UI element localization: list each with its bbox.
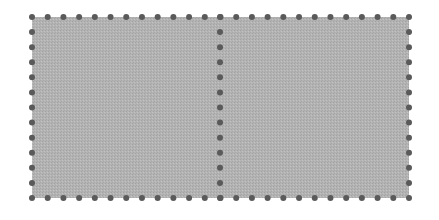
perforation-dot-top: [29, 14, 35, 20]
perforation-dot-right: [406, 120, 412, 126]
perforation-dot-bottom: [343, 195, 349, 201]
perforation-dot-bottom: [123, 195, 129, 201]
perforation-dot-divider: [217, 120, 223, 126]
perforation-dot-divider: [217, 165, 223, 171]
perforation-dot-top: [155, 14, 161, 20]
perforation-dot-top: [76, 14, 82, 20]
perforation-dot-bottom: [186, 195, 192, 201]
perforation-dot-top: [60, 14, 66, 20]
perforation-dot-right: [406, 74, 412, 80]
perforation-dot-top: [265, 14, 271, 20]
perforation-dot-bottom: [76, 195, 82, 201]
perforation-dot-divider: [217, 180, 223, 186]
perforation-dot-top: [186, 14, 192, 20]
perforation-dot-bottom: [280, 195, 286, 201]
perforation-dot-top: [45, 14, 51, 20]
perforation-dot-top: [249, 14, 255, 20]
perforation-dot-top: [343, 14, 349, 20]
perforation-dot-right: [406, 29, 412, 35]
perforation-dot-divider: [217, 59, 223, 65]
perforation-dot-divider: [217, 195, 223, 201]
perforation-dot-top: [233, 14, 239, 20]
perforation-dot-bottom: [359, 195, 365, 201]
perforation-dot-bottom: [312, 195, 318, 201]
perforation-dot-left: [29, 74, 35, 80]
perforation-dot-top: [375, 14, 381, 20]
perforation-dot-top: [359, 14, 365, 20]
right-panel: [220, 17, 409, 198]
perforation-dot-top: [108, 14, 114, 20]
perforation-dot-bottom: [92, 195, 98, 201]
perforation-dot-top: [406, 14, 412, 20]
perforation-dot-divider: [217, 14, 223, 20]
perforation-dot-right: [406, 105, 412, 111]
perforation-dot-left: [29, 89, 35, 95]
perforation-dot-left: [29, 180, 35, 186]
perforation-dot-bottom: [29, 195, 35, 201]
perforation-dot-right: [406, 135, 412, 141]
perforation-dot-bottom: [155, 195, 161, 201]
perforation-dot-top: [280, 14, 286, 20]
perforation-dot-divider: [217, 150, 223, 156]
perforation-dot-left: [29, 105, 35, 111]
perforation-dot-left: [29, 150, 35, 156]
perforation-dot-top: [327, 14, 333, 20]
perforation-dot-right: [406, 150, 412, 156]
perforation-dot-left: [29, 59, 35, 65]
perforation-dot-bottom: [249, 195, 255, 201]
perforation-dot-left: [29, 29, 35, 35]
perforation-dot-bottom: [265, 195, 271, 201]
perforation-dot-bottom: [60, 195, 66, 201]
perforation-dot-bottom: [139, 195, 145, 201]
perforation-dot-bottom: [406, 195, 412, 201]
perforation-dot-divider: [217, 44, 223, 50]
perforation-dot-bottom: [108, 195, 114, 201]
perforated-sheet-diagram: [0, 0, 439, 220]
perforation-dot-bottom: [327, 195, 333, 201]
perforation-dot-left: [29, 165, 35, 171]
perforation-dot-divider: [217, 74, 223, 80]
perforation-dot-right: [406, 180, 412, 186]
left-panel: [32, 17, 220, 198]
perforation-dot-bottom: [45, 195, 51, 201]
perforation-dot-left: [29, 120, 35, 126]
perforation-dot-top: [202, 14, 208, 20]
diagram-canvas: [0, 0, 439, 220]
perforation-dot-bottom: [375, 195, 381, 201]
perforation-dot-top: [92, 14, 98, 20]
perforation-dot-bottom: [296, 195, 302, 201]
perforation-dot-left: [29, 44, 35, 50]
perforation-dot-top: [390, 14, 396, 20]
perforation-dot-top: [139, 14, 145, 20]
perforation-dot-bottom: [390, 195, 396, 201]
perforation-dot-bottom: [170, 195, 176, 201]
perforation-dot-divider: [217, 89, 223, 95]
perforation-dot-right: [406, 59, 412, 65]
perforation-dot-bottom: [202, 195, 208, 201]
perforation-dot-top: [123, 14, 129, 20]
perforation-dot-divider: [217, 29, 223, 35]
perforation-dot-top: [312, 14, 318, 20]
perforation-dot-right: [406, 89, 412, 95]
perforation-dot-right: [406, 44, 412, 50]
perforation-dot-divider: [217, 135, 223, 141]
perforation-dot-divider: [217, 105, 223, 111]
perforation-dot-right: [406, 165, 412, 171]
perforation-dot-top: [170, 14, 176, 20]
perforation-dot-left: [29, 135, 35, 141]
perforation-dot-top: [296, 14, 302, 20]
perforation-dot-bottom: [233, 195, 239, 201]
